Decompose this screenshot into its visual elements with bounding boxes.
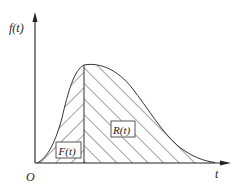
F-label: F(t) <box>58 145 76 158</box>
y-axis-label: f(t) <box>9 21 24 35</box>
x-axis-arrow-icon <box>220 161 231 166</box>
x-axis-label: t <box>215 167 219 181</box>
origin-label: O <box>26 170 35 184</box>
pdf-diagram: f(t) t O F(t) R(t) <box>0 0 251 187</box>
y-axis-arrow-icon <box>33 12 38 22</box>
R-label: R(t) <box>112 124 130 137</box>
reliability-region-hatch <box>80 55 220 165</box>
